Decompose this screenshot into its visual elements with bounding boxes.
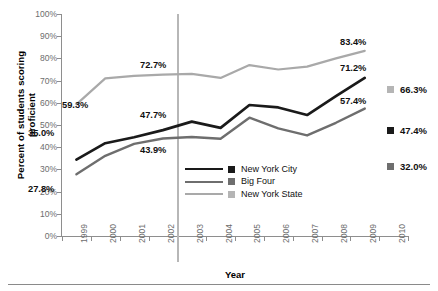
y-tick-mark (57, 125, 61, 126)
x-tick-mark (350, 237, 351, 241)
y-tick-label: 40% (0, 143, 57, 151)
y-tick-label: 80% (0, 54, 57, 62)
x-tick-mark (264, 237, 265, 241)
y-tick-mark (57, 36, 61, 37)
y-tick-mark (57, 169, 61, 170)
side-value-bigfour: 32.0% (400, 161, 427, 172)
legend-label-bigfour: Big Four (241, 177, 275, 186)
side-square-nyc (387, 127, 394, 134)
legend-square-swatch-nyc (228, 166, 235, 173)
y-tick-label: 0% (0, 232, 57, 240)
line-chart: Percent of students scoring proficient 1… (0, 0, 438, 291)
x-tick-mark (62, 237, 63, 241)
plot-area (62, 14, 408, 236)
legend-square-swatch-bigfour (228, 178, 235, 185)
x-tick-mark (206, 237, 207, 241)
side-square-nys (387, 86, 394, 93)
legend-line-swatch-bigfour (185, 181, 223, 183)
side-value-nys: 66.3% (400, 84, 427, 95)
legend: New York City Big Four New York State (185, 163, 303, 201)
x-tick-mark (293, 237, 294, 241)
x-tick-mark (379, 237, 380, 241)
data-label-bigfour-2002: 43.9% (140, 145, 166, 155)
data-label-nyc-1999: 35.0% (28, 128, 54, 138)
side-value-nyc: 47.4% (400, 125, 427, 136)
legend-label-nys: New York State (241, 190, 303, 199)
x-tick-mark (120, 237, 121, 241)
y-tick-label: 60% (0, 99, 57, 107)
legend-item-new-york-state[interactable]: New York State (185, 188, 303, 201)
data-label-nys-2009: 83.4% (340, 37, 366, 47)
legend-item-new-york-city[interactable]: New York City (185, 163, 303, 176)
x-tick-mark (322, 237, 323, 241)
data-label-bigfour-2009: 57.4% (340, 96, 366, 106)
y-tick-mark (57, 214, 61, 215)
legend-label-nyc: New York City (241, 165, 297, 174)
y-tick-mark (57, 103, 61, 104)
legend-line-swatch-nyc (185, 168, 223, 170)
x-tick-mark (91, 237, 92, 241)
x-tick-mark (149, 237, 150, 241)
data-label-nyc-2009: 71.2% (340, 63, 366, 73)
y-tick-mark (57, 58, 61, 59)
y-tick-label: 10% (0, 210, 57, 218)
legend-item-big-four[interactable]: Big Four (185, 176, 303, 189)
data-label-bigfour-1999: 27.8% (28, 184, 54, 194)
y-tick-label: 30% (0, 165, 57, 173)
footer-divider (8, 284, 430, 285)
side-annotation-new-york-state: 66.3% (387, 84, 427, 95)
x-axis-title: Year (62, 269, 408, 280)
series-line-new-york-city (76, 78, 364, 160)
y-tick-label: 70% (0, 77, 57, 85)
side-annotation-big-four: 32.0% (387, 161, 427, 172)
side-square-bigfour (387, 163, 394, 170)
legend-line-swatch-nys (185, 193, 223, 195)
x-tick-mark (235, 237, 236, 241)
data-label-nys-1999: 59.3% (62, 100, 88, 110)
y-tick-mark (57, 81, 61, 82)
y-tick-mark (57, 147, 61, 148)
data-label-nyc-2002: 47.7% (140, 110, 166, 120)
x-tick-mark (408, 237, 409, 241)
y-tick-label: 90% (0, 32, 57, 40)
y-tick-mark (57, 14, 61, 15)
legend-square-swatch-nys (228, 191, 235, 198)
y-tick-label: 100% (0, 10, 57, 18)
series-line-new-york-state (76, 51, 364, 105)
side-annotation-new-york-city: 47.4% (387, 125, 427, 136)
data-label-nys-2002: 72.7% (140, 60, 166, 70)
y-tick-mark (57, 236, 61, 237)
series-lines (62, 14, 408, 236)
y-tick-mark (57, 192, 61, 193)
